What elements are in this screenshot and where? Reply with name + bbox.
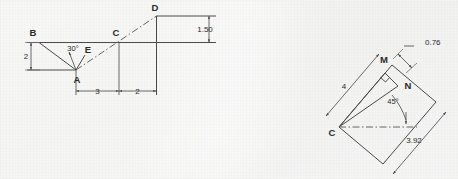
dim-label-076: 0.76 <box>425 38 441 47</box>
right-angle-mark <box>381 77 391 82</box>
point-label-d: D <box>152 2 159 13</box>
angle-label-30: 30° <box>67 44 78 53</box>
dim-label-4: 4 <box>342 82 347 91</box>
point-label-m: M <box>380 54 388 65</box>
point-label-n: N <box>405 80 412 91</box>
figure-root: B C D A E 2 3 2 1.50 30° <box>0 0 458 179</box>
dim-label-392: 3.92 <box>406 136 422 145</box>
right-diagram: C M N 4 0.76 3.92 45° <box>326 38 446 174</box>
left-diagram: B C D A E 2 3 2 1.50 30° <box>24 2 216 96</box>
point-label-c: C <box>113 27 120 38</box>
dim-label-vertical-2: 2 <box>24 52 29 61</box>
dim-label-horizontal-3: 3 <box>95 87 100 96</box>
dim-076-ext-b <box>406 63 417 73</box>
member-a-e <box>76 55 85 70</box>
dim-label-horizontal-2: 2 <box>135 87 140 96</box>
point-label-e: E <box>85 44 91 55</box>
drawing-canvas: B C D A E 2 3 2 1.50 30° <box>0 0 458 179</box>
dim-076-line <box>398 54 412 68</box>
dim-4-line <box>326 54 379 116</box>
segment-m-n <box>385 73 398 86</box>
point-label-a: A <box>74 74 81 85</box>
point-label-b: B <box>30 27 37 38</box>
dim-label-vertical-150: 1.50 <box>197 25 213 34</box>
angle-label-45: 45° <box>387 97 398 106</box>
point-label-c-right: C <box>329 127 336 138</box>
